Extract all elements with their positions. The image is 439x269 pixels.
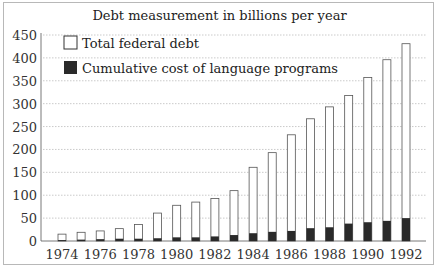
bar-total-debt	[173, 205, 181, 241]
bar-language-cost	[173, 237, 181, 241]
bar-total-debt	[192, 202, 200, 241]
bar-language-cost	[402, 218, 410, 241]
y-tick-label: 300	[12, 97, 37, 112]
y-tick-label: 250	[12, 120, 37, 135]
bar-total-debt	[268, 153, 276, 241]
x-tick-label: 1984	[237, 247, 270, 262]
x-tick-label: 1976	[84, 247, 117, 262]
bar-total-debt	[364, 78, 372, 241]
bar-language-cost	[211, 236, 219, 241]
legend-label-language-cost: Cumulative cost of language programs	[82, 61, 338, 76]
bar-language-cost	[58, 240, 66, 241]
bar-language-cost	[287, 231, 295, 241]
bar-total-debt	[230, 191, 238, 241]
bar-total-debt	[249, 167, 257, 241]
y-tick-label: 450	[12, 28, 37, 43]
bar-total-debt	[58, 234, 66, 241]
bar-total-debt	[211, 198, 219, 241]
x-tick-label: 1990	[351, 247, 384, 262]
bar-language-cost	[96, 239, 104, 241]
y-tick-label: 0	[29, 234, 37, 249]
bar-language-cost	[134, 239, 142, 241]
bar-language-cost	[306, 228, 314, 241]
x-tick-label: 1988	[313, 247, 346, 262]
bar-total-debt	[134, 225, 142, 241]
legend-swatch-total-debt	[64, 36, 77, 49]
bar-language-cost	[230, 235, 238, 241]
bar-total-debt	[383, 60, 391, 241]
y-tick-label: 200	[12, 142, 37, 157]
x-tick-label: 1978	[122, 247, 155, 262]
legend-label-total-debt: Total federal debt	[82, 36, 200, 51]
x-tick-label: 1992	[389, 247, 422, 262]
x-tick-label: 1986	[275, 247, 308, 262]
bar-total-debt	[345, 95, 353, 241]
y-tick-label: 400	[12, 51, 37, 66]
y-tick-label: 150	[12, 165, 37, 180]
bar-language-cost	[115, 239, 123, 241]
bar-language-cost	[192, 237, 200, 241]
y-tick-label: 50	[20, 211, 37, 226]
bar-chart: 0501001502002503003504004501974197619781…	[0, 0, 439, 269]
bar-language-cost	[364, 222, 372, 241]
legend-swatch-language-cost	[64, 61, 77, 74]
y-tick-label: 350	[12, 74, 37, 89]
bar-total-debt	[287, 135, 295, 241]
bar-language-cost	[383, 221, 391, 241]
bar-total-debt	[326, 107, 334, 241]
bar-language-cost	[154, 238, 162, 241]
bar-total-debt	[402, 44, 410, 241]
bar-total-debt	[154, 213, 162, 241]
y-tick-label: 100	[12, 188, 37, 203]
x-tick-label: 1980	[160, 247, 193, 262]
x-tick-label: 1982	[198, 247, 231, 262]
bar-language-cost	[249, 233, 257, 241]
bar-total-debt	[306, 119, 314, 241]
bar-language-cost	[268, 232, 276, 241]
x-tick-label: 1974	[45, 247, 78, 262]
bar-language-cost	[345, 224, 353, 241]
bar-language-cost	[326, 227, 334, 241]
bar-language-cost	[77, 240, 85, 241]
